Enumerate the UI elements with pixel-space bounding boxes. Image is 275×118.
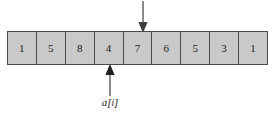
array-cell-8[interactable]: 1: [239, 32, 267, 64]
array-container: 1 5 8 4 7 6 5 3 1: [7, 31, 268, 65]
arrow-up-icon: [103, 64, 117, 96]
array-cell-value: 7: [135, 43, 141, 54]
array-cell-value: 1: [19, 43, 25, 54]
array-cell-value: 4: [106, 43, 112, 54]
array-cell-4[interactable]: 7: [124, 32, 153, 64]
arrow-down-icon: [136, 1, 150, 33]
pointer-label: a[i]: [84, 96, 136, 108]
array-cell-1[interactable]: 5: [37, 32, 66, 64]
array-cell-value: 1: [250, 43, 256, 54]
array-cell-5[interactable]: 6: [152, 32, 181, 64]
array-cell-6[interactable]: 5: [181, 32, 210, 64]
array-cell-0[interactable]: 1: [8, 32, 37, 64]
array-cell-3[interactable]: 4: [95, 32, 124, 64]
array-cell-value: 6: [164, 43, 170, 54]
pointer-label-close-bracket: ]: [114, 96, 118, 108]
array-cell-value: 8: [77, 43, 83, 54]
array-diagram-figure: 1 5 8 4 7 6 5 3 1 a: [0, 0, 275, 118]
array-cell-2[interactable]: 8: [66, 32, 95, 64]
array-cell-value: 5: [192, 43, 198, 54]
array-cell-7[interactable]: 3: [210, 32, 239, 64]
array-cell-value: 3: [221, 43, 227, 54]
array-cell-value: 5: [48, 43, 54, 54]
